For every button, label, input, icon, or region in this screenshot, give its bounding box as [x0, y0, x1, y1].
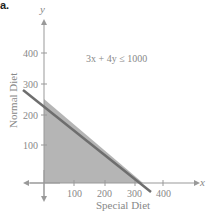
inequality-annotation: 3x + 4y ≤ 1000 — [86, 53, 147, 64]
x-tick-label: 200 — [97, 188, 112, 199]
y-axis-title: Normal Diet — [7, 73, 19, 128]
inequality-graph: a. x y 100 200 300 400 100 200 300 400 3… — [0, 0, 209, 213]
panel-label: a. — [0, 0, 9, 11]
x-tick-label: 100 — [67, 188, 82, 199]
y-axis-letter: y — [39, 3, 45, 15]
x-tick-label: 400 — [156, 188, 171, 199]
y-tick-label: 100 — [23, 140, 38, 151]
x-axis-letter: x — [199, 176, 205, 188]
x-tick-label: 300 — [127, 188, 142, 199]
x-axis-title: Special Diet — [96, 199, 150, 211]
feasible-region — [44, 99, 143, 183]
y-tick-label: 400 — [23, 48, 38, 59]
y-tick-label: 300 — [23, 79, 38, 90]
y-tick-label: 200 — [23, 110, 38, 121]
